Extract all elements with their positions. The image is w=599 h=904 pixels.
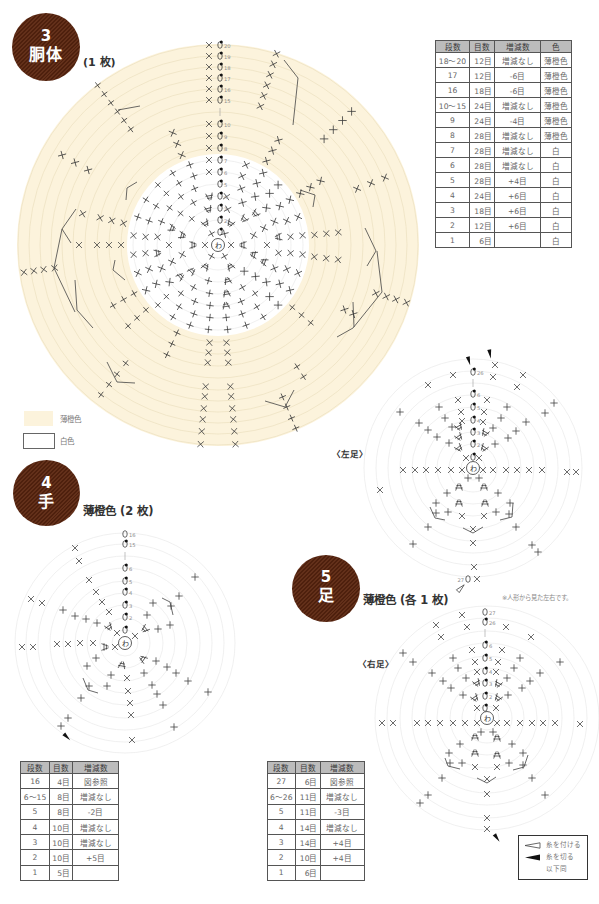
- single-crochet-x-symbol: [472, 659, 477, 664]
- table-cell: 増減なし: [495, 53, 541, 68]
- single-crochet-x-symbol: [93, 589, 98, 594]
- table-row: 18〜2012目増減なし薄橙色: [436, 53, 572, 68]
- single-crochet-x-symbol: [495, 659, 500, 664]
- single-crochet-plus-symbol: [506, 760, 513, 767]
- table-row: 310目増減なし: [21, 835, 119, 850]
- slip-stitch-dot: [125, 563, 128, 566]
- single-crochet-plus-symbol: [459, 760, 466, 767]
- slip-stitch-dot: [220, 203, 223, 206]
- table-cell: 3: [436, 203, 470, 218]
- table-cell: 白: [541, 143, 572, 158]
- table-cell: +4目: [320, 835, 364, 850]
- round-number-label: 2: [224, 218, 227, 224]
- table-cell: -3目: [320, 804, 364, 819]
- single-crochet-x-symbol: [490, 467, 495, 472]
- cut-yarn-icon: [493, 833, 501, 843]
- single-crochet-x-symbol: [114, 630, 119, 635]
- single-crochet-plus-symbol: [150, 600, 157, 607]
- column-header: 増減数: [495, 41, 541, 53]
- chain-up-symbol: [483, 703, 488, 711]
- table-cell: +5目: [73, 850, 119, 865]
- slip-stitch-dot: [485, 703, 488, 706]
- single-crochet-plus-symbol: [511, 665, 518, 672]
- table-cell: -6目: [495, 68, 541, 83]
- single-crochet-x-symbol: [112, 644, 117, 649]
- round-number-label: 5: [489, 656, 492, 662]
- table-row: 6〜2611目増減なし: [268, 789, 365, 804]
- column-header: 目数: [50, 762, 73, 774]
- single-crochet-plus-symbol: [442, 415, 449, 422]
- table-cell: +4目: [495, 173, 541, 188]
- magic-ring-center: わ: [212, 239, 225, 252]
- single-crochet-plus-symbol: [449, 424, 456, 431]
- round-number-label: 26: [489, 620, 496, 626]
- single-crochet-x-symbol: [77, 640, 82, 645]
- single-crochet-plus-symbol: [417, 800, 424, 807]
- table-cell: 18〜20: [436, 53, 470, 68]
- decrease-symbol: [494, 735, 501, 741]
- single-crochet-plus-symbol: [171, 724, 178, 731]
- table-cell: 3: [268, 835, 296, 850]
- table-header-row: 段数目数増減数: [21, 762, 119, 774]
- single-crochet-x-symbol: [526, 467, 531, 472]
- table-cell: 10目: [50, 850, 73, 865]
- table-cell: 12目: [470, 53, 495, 68]
- table-row: 528目+4目白: [436, 173, 572, 188]
- column-header: 段数: [436, 41, 470, 53]
- table-cell: -6目: [495, 83, 541, 98]
- single-crochet-x-symbol: [493, 669, 498, 674]
- magic-ring-center: わ: [119, 637, 132, 650]
- table-cell: 増減なし: [73, 789, 119, 804]
- table-cell: 28目: [470, 128, 495, 143]
- round-number-label: 2: [129, 615, 132, 621]
- table-cell: 9: [436, 113, 470, 128]
- body-rounds-table: 段数目数増減数色18〜2012目増減なし薄橙色1712目-6目薄橙色1618目-…: [435, 40, 572, 248]
- legend-same-label: 以下同: [546, 864, 567, 875]
- single-crochet-x-symbol: [573, 469, 578, 474]
- round-number-label: 16: [129, 532, 136, 538]
- table-cell: 白: [541, 173, 572, 188]
- single-crochet-plus-symbol: [153, 658, 160, 665]
- single-crochet-plus-symbol: [519, 685, 526, 692]
- table-cell: 18目: [470, 83, 495, 98]
- table-cell: 10目: [295, 850, 320, 865]
- single-crochet-x-symbol: [54, 641, 59, 646]
- table-cell: 28目: [470, 158, 495, 173]
- single-crochet-x-symbol: [474, 669, 479, 674]
- single-crochet-x-symbol: [437, 720, 442, 725]
- single-crochet-plus-symbol: [400, 650, 407, 657]
- table-cell: 5: [21, 804, 50, 819]
- single-crochet-plus-symbol: [83, 616, 90, 623]
- round-number-label: 5: [477, 405, 480, 411]
- table-cell: 4: [21, 819, 50, 834]
- table-cell: 1: [21, 865, 50, 880]
- section-title: 足: [292, 586, 360, 605]
- table-row: 410目増減なし: [21, 819, 119, 834]
- slip-stitch-dot: [473, 415, 476, 418]
- table-cell: 増減なし: [495, 158, 541, 173]
- single-crochet-x-symbol: [481, 409, 486, 414]
- single-crochet-x-symbol: [450, 720, 455, 725]
- single-crochet-x-symbol: [540, 720, 545, 725]
- table-cell: 10目: [50, 819, 73, 834]
- single-crochet-x-symbol: [90, 640, 95, 645]
- single-crochet-x-symbol: [514, 467, 519, 472]
- table-header-row: 段数目数増減数色: [436, 41, 572, 53]
- single-crochet-plus-symbol: [58, 723, 65, 730]
- slip-stitch-dot: [220, 155, 223, 158]
- table-cell: 5: [436, 173, 470, 188]
- single-crochet-plus-symbol: [410, 659, 417, 666]
- chain-end-symbol: 27: [483, 609, 496, 616]
- column-header: 目数: [295, 762, 320, 774]
- table-cell: 14目: [295, 835, 320, 850]
- single-crochet-plus-symbol: [476, 475, 483, 482]
- chain-up-symbol: 3: [483, 678, 493, 687]
- table-row: 828目増減なし薄橙色: [436, 128, 572, 143]
- section-number: 4: [13, 475, 80, 492]
- slip-stitch-dot: [473, 439, 476, 442]
- single-crochet-x-symbol: [400, 467, 405, 472]
- table-cell: 8目: [50, 789, 73, 804]
- table-cell: 11目: [295, 804, 320, 819]
- chain-up-symbol: 26: [483, 617, 496, 626]
- table-cell: 16: [436, 83, 470, 98]
